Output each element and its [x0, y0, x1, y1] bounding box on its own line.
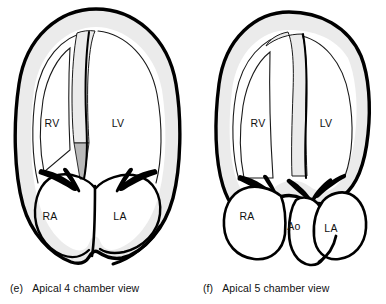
- caption-apical-5-chamber: (f)Apical 5 chamber view: [203, 282, 329, 294]
- caption-apical-4-chamber: (e)Apical 4 chamber view: [10, 282, 139, 294]
- caption-text-f: Apical 5 chamber view: [222, 282, 329, 294]
- caption-tag-e: (e): [10, 282, 23, 294]
- right-atrium-outline-f: [224, 187, 285, 259]
- diagram-panel-apical-4-chamber: RV LV RA LA: [0, 0, 193, 304]
- diagram-panel-apical-5-chamber: RV LV RA Ao LA: [193, 0, 386, 304]
- figure-apical-chamber-views: RV LV RA LA: [0, 0, 386, 304]
- apical-5-chamber-drawing: [193, 0, 386, 268]
- caption-tag-f: (f): [203, 282, 213, 294]
- caption-text-e: Apical 4 chamber view: [32, 282, 139, 294]
- left-atrium-outline-f: [314, 192, 366, 259]
- apical-4-chamber-drawing: [0, 0, 193, 268]
